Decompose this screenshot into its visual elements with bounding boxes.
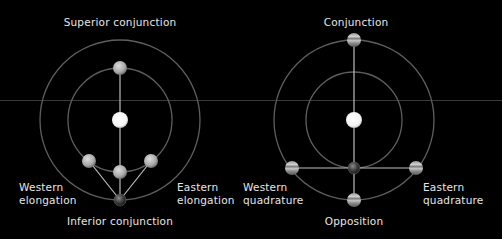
label-line: quadrature (243, 194, 304, 207)
label-line: elongation (177, 194, 235, 207)
label-eastern-elongation: Eastern elongation (177, 181, 235, 207)
label-opposition: Opposition (325, 215, 384, 228)
label-line: Western (19, 181, 77, 194)
earth-icon (348, 162, 360, 174)
label-line: quadrature (423, 194, 484, 207)
planet-opposition-icon (347, 193, 361, 207)
label-line: Eastern (177, 181, 235, 194)
planet-western-elongation-icon (82, 154, 96, 168)
planet-western-quadrature-icon (285, 161, 299, 175)
label-conjunction: Conjunction (324, 16, 389, 29)
planet-conjunction-icon (347, 33, 361, 47)
label-eastern-quadrature: Eastern quadrature (423, 181, 484, 207)
planet-superior-conjunction-icon (113, 61, 127, 75)
label-line: Eastern (423, 181, 484, 194)
planet-eastern-quadrature-icon (409, 161, 423, 175)
label-superior-conjunction: Superior conjunction (64, 16, 177, 29)
sun-icon (346, 112, 362, 128)
label-western-quadrature: Western quadrature (243, 181, 304, 207)
label-inferior-conjunction: Inferior conjunction (67, 215, 173, 228)
earth-icon (114, 194, 126, 206)
sun-icon (112, 112, 128, 128)
planet-eastern-elongation-icon (144, 154, 158, 168)
planet-inferior-conjunction-icon (113, 165, 127, 179)
label-line: Western (243, 181, 304, 194)
label-western-elongation: Western elongation (19, 181, 77, 207)
label-line: elongation (19, 194, 77, 207)
